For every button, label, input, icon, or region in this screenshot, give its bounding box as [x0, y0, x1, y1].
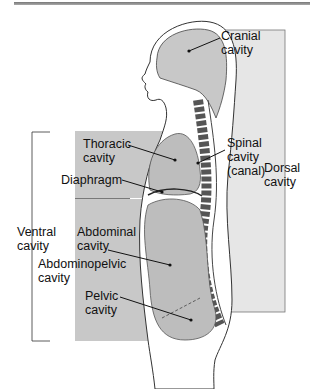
label-abdominal-cavity: Abdominal cavity [77, 225, 136, 253]
label-pelvic-cavity: Pelvic cavity [85, 289, 118, 317]
label-thoracic-cavity: Thoracic cavity [83, 137, 131, 165]
label-cranial-cavity: Cranial cavity [221, 29, 261, 57]
body-cavity-diagram [0, 0, 310, 389]
label-dorsal-cavity: Dorsal cavity [264, 161, 300, 189]
label-spinal-cavity: Spinal cavity (canal) [227, 136, 265, 178]
label-diaphragm: Diaphragm [61, 173, 122, 187]
label-abdominopelvic-cavity: Abdominopelvic cavity [38, 257, 126, 285]
label-ventral-cavity: Ventral cavity [17, 225, 56, 253]
